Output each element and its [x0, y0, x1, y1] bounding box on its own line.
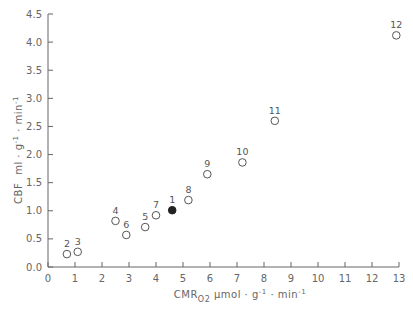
- point-label: 7: [153, 199, 159, 210]
- x-tick-label: 0: [45, 273, 51, 284]
- y-axis-ticks: 0.00.51.01.52.02.53.03.54.04.5: [26, 9, 53, 273]
- data-points: 123456789101112: [63, 19, 402, 258]
- point-label: 11: [269, 105, 281, 116]
- open-circle-marker: [239, 159, 247, 167]
- x-tick-label: 12: [366, 273, 379, 284]
- y-tick-label: 2.5: [26, 121, 42, 132]
- x-tick-label: 8: [261, 273, 267, 284]
- point-label: 5: [142, 211, 148, 222]
- point-label: 1: [169, 194, 175, 205]
- point-label: 6: [123, 219, 129, 230]
- filled-circle-marker: [168, 206, 176, 214]
- x-tick-label: 2: [99, 273, 105, 284]
- axes: [48, 14, 399, 267]
- y-tick-label: 4.0: [26, 37, 42, 48]
- y-axis-label: CBFml · g-1 · min-1: [12, 96, 24, 204]
- open-circle-marker: [123, 231, 131, 239]
- open-circle-marker: [74, 248, 82, 256]
- open-circle-marker: [152, 211, 160, 219]
- data-point-5: 5: [141, 211, 149, 231]
- x-tick-label: 5: [180, 273, 186, 284]
- open-circle-marker: [112, 217, 120, 225]
- x-tick-label: 6: [207, 273, 213, 284]
- data-point-4: 4: [112, 205, 120, 225]
- data-point-1: 1: [168, 194, 176, 214]
- open-circle-marker: [63, 250, 71, 258]
- point-label: 10: [236, 146, 248, 157]
- data-point-6: 6: [123, 219, 131, 239]
- x-tick-label: 3: [126, 273, 132, 284]
- open-circle-marker: [271, 117, 279, 125]
- point-label: 9: [204, 158, 210, 169]
- y-tick-label: 1.5: [26, 177, 42, 188]
- x-tick-label: 4: [153, 273, 159, 284]
- data-point-12: 12: [390, 19, 402, 39]
- open-circle-marker: [185, 196, 193, 204]
- data-point-11: 11: [269, 105, 281, 125]
- point-label: 8: [185, 184, 191, 195]
- point-label: 12: [390, 19, 402, 30]
- y-tick-label: 4.5: [26, 9, 42, 20]
- x-tick-label: 11: [339, 273, 352, 284]
- y-tick-label: 3.0: [26, 93, 42, 104]
- open-circle-marker: [393, 32, 401, 40]
- data-point-3: 3: [74, 236, 82, 256]
- point-label: 4: [112, 205, 118, 216]
- y-tick-label: 3.5: [26, 65, 42, 76]
- y-tick-label: 0.5: [26, 233, 42, 244]
- data-point-7: 7: [152, 199, 160, 219]
- x-axis-ticks: 012345678910111213: [45, 262, 406, 284]
- data-point-9: 9: [204, 158, 212, 178]
- scatter-chart: 0.00.51.01.52.02.53.03.54.04.5 012345678…: [0, 0, 413, 310]
- open-circle-marker: [141, 223, 149, 231]
- x-tick-label: 9: [288, 273, 294, 284]
- point-label: 3: [75, 236, 81, 247]
- data-point-8: 8: [185, 184, 193, 204]
- y-tick-label: 2.0: [26, 149, 42, 160]
- y-tick-label: 0.0: [26, 262, 42, 273]
- open-circle-marker: [204, 170, 212, 178]
- point-label: 2: [64, 238, 70, 249]
- data-point-10: 10: [236, 146, 248, 166]
- x-tick-label: 1: [72, 273, 78, 284]
- y-tick-label: 1.0: [26, 205, 42, 216]
- x-tick-label: 7: [234, 273, 240, 284]
- data-point-2: 2: [63, 238, 71, 258]
- x-axis-label: CMRO2 µmol · g-1 · min-1: [174, 288, 306, 304]
- x-tick-label: 13: [393, 273, 406, 284]
- x-tick-label: 10: [312, 273, 325, 284]
